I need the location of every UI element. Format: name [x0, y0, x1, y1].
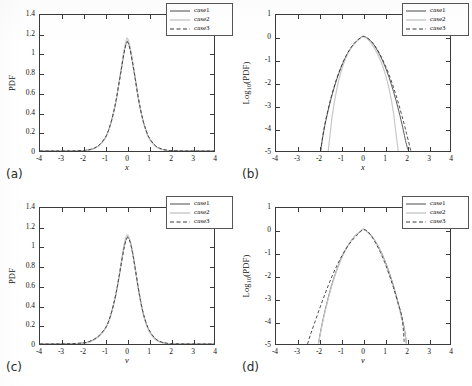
- y-tick-label: 0.2: [0, 129, 35, 137]
- legend-item-case2: case2: [169, 15, 229, 24]
- y-tick-label: 1: [0, 243, 35, 251]
- x-tick-label: 4: [213, 155, 217, 163]
- curve-case1: [40, 41, 214, 151]
- curve-case1: [40, 237, 214, 344]
- x-tick-mark: [298, 147, 299, 151]
- y-tick-mark-right: [210, 133, 214, 134]
- x-tick-mark-top: [298, 208, 299, 212]
- y-tick-label: 1.4: [0, 10, 35, 18]
- legend-item-case2: case2: [405, 208, 465, 217]
- x-tick-mark: [128, 340, 129, 344]
- x-tick-label: -2: [316, 348, 322, 356]
- x-tick-label: -1: [338, 155, 344, 163]
- x-tick-mark-top: [150, 208, 151, 212]
- x-tick-mark: [342, 340, 343, 344]
- y-tick-label: 0.8: [0, 69, 35, 77]
- y-tick-mark-right: [210, 267, 214, 268]
- y-tick-label: 0: [236, 33, 271, 41]
- x-tick-mark: [320, 147, 321, 151]
- x-tick-mark-top: [84, 208, 85, 212]
- y-tick-mark-right: [210, 326, 214, 327]
- y-tick-mark-right: [210, 54, 214, 55]
- x-tick-mark: [342, 147, 343, 151]
- x-tick-mark-top: [386, 208, 387, 212]
- x-tick-label: 2: [405, 348, 409, 356]
- x-tick-mark: [84, 147, 85, 151]
- x-tick-label: -4: [36, 348, 42, 356]
- y-tick-label: 0: [236, 226, 271, 234]
- y-tick-mark: [40, 133, 44, 134]
- x-tick-label: -3: [58, 155, 64, 163]
- x-tick-label: -2: [316, 155, 322, 163]
- curve-case3: [40, 238, 214, 344]
- curve-case3: [40, 42, 214, 151]
- y-tick-mark-right: [210, 307, 214, 308]
- y-tick-mark: [40, 267, 44, 268]
- legend-item-case1: case1: [405, 199, 465, 208]
- x-tick-mark: [386, 340, 387, 344]
- x-tick-label: 4: [213, 348, 217, 356]
- x-tick-mark: [84, 340, 85, 344]
- x-tick-label: 3: [427, 155, 431, 163]
- x-tick-label: 1: [383, 348, 387, 356]
- legend-label: case2: [194, 209, 210, 216]
- legend-label: case2: [430, 16, 446, 23]
- x-tick-mark-top: [128, 15, 129, 19]
- x-tick-label: 1: [147, 348, 151, 356]
- x-tick-label: 4: [449, 155, 453, 163]
- x-tick-mark-top: [62, 15, 63, 19]
- legend: case1case2case3: [402, 3, 469, 36]
- y-tick-label: 1: [236, 10, 271, 18]
- x-tick-label: -1: [102, 155, 108, 163]
- legend-swatch-case3: [169, 219, 191, 225]
- x-tick-mark-top: [342, 208, 343, 212]
- legend: case1case2case3: [166, 196, 233, 229]
- y-tick-label: 0.4: [0, 302, 35, 310]
- curve-case2: [40, 38, 214, 151]
- y-tick-mark: [40, 247, 44, 248]
- y-tick-mark-right: [210, 74, 214, 75]
- legend-label: case2: [430, 209, 446, 216]
- legend-swatch-case1: [405, 201, 427, 207]
- y-tick-label: 0.2: [0, 322, 35, 330]
- x-tick-label: -4: [272, 155, 278, 163]
- x-tick-label: -3: [58, 348, 64, 356]
- panel-tag: (b): [242, 168, 259, 180]
- x-tick-mark-top: [62, 208, 63, 212]
- x-tick-label: 2: [169, 155, 173, 163]
- x-tick-label: 1: [383, 155, 387, 163]
- curve-case3: [321, 37, 411, 151]
- y-tick-label: 1.4: [0, 203, 35, 211]
- y-tick-mark: [276, 130, 280, 131]
- legend-swatch-case1: [169, 8, 191, 14]
- y-tick-label: 1: [0, 50, 35, 58]
- x-tick-mark-top: [106, 208, 107, 212]
- legend-swatch-case3: [169, 26, 191, 32]
- x-tick-label: -1: [338, 348, 344, 356]
- x-tick-mark: [128, 147, 129, 151]
- legend-item-case3: case3: [405, 217, 465, 226]
- panel-b: case1case2case3-4-3-2-101234-5-4-3-2-101…: [236, 0, 472, 193]
- figure-panel-grid: case1case2case3-4-3-2-10123400.20.40.60.…: [0, 0, 472, 386]
- y-tick-mark-right: [446, 130, 450, 131]
- y-tick-label: 1.2: [0, 30, 35, 38]
- y-tick-mark-right: [446, 107, 450, 108]
- x-tick-label: 3: [427, 348, 431, 356]
- x-tick-mark: [430, 147, 431, 151]
- y-tick-label: 0.4: [0, 109, 35, 117]
- x-tick-mark: [62, 147, 63, 151]
- x-tick-mark: [430, 340, 431, 344]
- legend-item-case1: case1: [405, 6, 465, 15]
- y-tick-label: -5: [236, 148, 271, 156]
- x-tick-mark: [62, 340, 63, 344]
- legend: case1case2case3: [166, 3, 233, 36]
- x-tick-mark-top: [320, 15, 321, 19]
- legend-label: case3: [194, 218, 210, 225]
- legend-item-case1: case1: [169, 6, 229, 15]
- x-tick-mark: [408, 147, 409, 151]
- x-axis-title: x: [361, 163, 365, 172]
- x-tick-label: -3: [294, 155, 300, 163]
- y-tick-label: 0.6: [0, 282, 35, 290]
- x-tick-label: 2: [169, 348, 173, 356]
- y-tick-label: -5: [236, 341, 271, 349]
